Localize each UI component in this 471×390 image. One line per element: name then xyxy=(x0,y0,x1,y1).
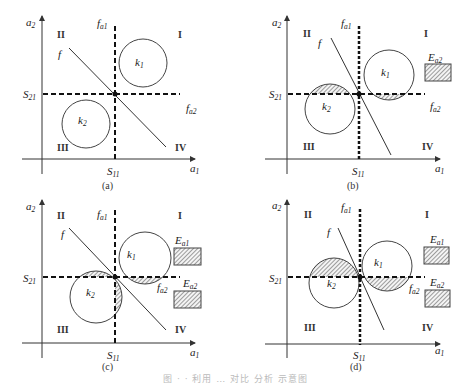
panel-b: a2 a1 S11 S21 fa1 fa2 f k1 k2 Ea2 I II I… xyxy=(265,16,451,192)
f-label: f xyxy=(61,228,66,240)
axis-y-label: a2 xyxy=(26,200,36,214)
intersection-point xyxy=(358,275,363,280)
s21-label: S21 xyxy=(269,88,282,102)
axis-y-label: a2 xyxy=(26,16,36,30)
quadrant-1: I xyxy=(425,209,429,220)
fa1-label: fa1 xyxy=(97,17,108,31)
intersection-point xyxy=(113,92,118,97)
panel-c: a2 a1 S11 S21 fa1 fa2 f k1 k2 Ea1 Ea2 I … xyxy=(22,200,201,373)
s11-label: S11 xyxy=(107,165,119,179)
quadrant-2: II xyxy=(57,210,65,221)
f-line xyxy=(69,48,166,147)
k1-label: k1 xyxy=(374,256,383,270)
quadrant-2: II xyxy=(57,29,65,40)
quadrant-3: III xyxy=(57,142,69,153)
legend-ea1-label: Ea1 xyxy=(429,233,444,247)
panel-d: a2 a1 S11 S21 fa1 fa2 f k1 k2 Ea1 Ea2 I … xyxy=(265,199,450,373)
s21-label: S21 xyxy=(23,88,36,102)
quadrant-4: IV xyxy=(422,141,434,152)
quadrant-1: I xyxy=(424,28,428,39)
legend-ea2-label: Ea2 xyxy=(429,276,444,290)
intersection-point xyxy=(357,92,362,97)
fa2-label: fa2 xyxy=(157,281,168,295)
s21-label: S21 xyxy=(269,272,282,286)
quadrant-4: IV xyxy=(175,142,187,153)
legend-ea2-label: Ea2 xyxy=(182,277,197,291)
k2-label: k2 xyxy=(327,277,336,291)
quadrant-4: IV xyxy=(422,322,434,333)
axis-x-label: a1 xyxy=(435,344,444,358)
legend-ea2-swatch xyxy=(425,64,451,81)
panel-label: (b) xyxy=(347,180,359,192)
quadrant-2: II xyxy=(304,209,312,220)
f-label: f xyxy=(318,37,323,49)
s11-label: S11 xyxy=(352,165,364,179)
legend-ea1-swatch xyxy=(424,247,449,264)
figure-canvas: a2 a1 S11 S21 fa1 fa2 f k1 k2 I II III I… xyxy=(0,0,471,390)
quadrant-2: II xyxy=(303,28,311,39)
quadrant-4: IV xyxy=(175,324,187,335)
axis-x-label: a1 xyxy=(435,162,444,176)
fa1-label: fa1 xyxy=(341,201,352,215)
axis-x-label: a1 xyxy=(190,346,199,360)
axis-x-label: a1 xyxy=(190,162,199,176)
fa1-label: fa1 xyxy=(341,17,352,31)
legend-ea1-label: Ea1 xyxy=(174,234,189,248)
legend-ea2-label: Ea2 xyxy=(427,51,442,65)
k2-label: k2 xyxy=(322,100,331,114)
fa1-label: fa1 xyxy=(97,208,108,222)
quadrant-1: I xyxy=(178,29,182,40)
quadrant-3: III xyxy=(57,324,69,335)
f-label: f xyxy=(58,48,63,60)
intersection-point xyxy=(113,275,118,280)
k2-label: k2 xyxy=(78,114,87,128)
panel-a: a2 a1 S11 S21 fa1 fa2 f k1 k2 I II III I… xyxy=(22,16,199,192)
figure-caption: 图 · · 利用 … 对比 分析 示意图 xyxy=(0,372,471,385)
fa2-label: fa2 xyxy=(186,102,197,116)
axis-y-label: a2 xyxy=(272,199,282,213)
k1-label: k1 xyxy=(127,248,136,262)
f-label: f xyxy=(327,226,332,238)
quadrant-3: III xyxy=(304,322,316,333)
panel-label: (a) xyxy=(102,180,113,192)
k1-label: k1 xyxy=(381,66,390,80)
fa2-label: fa2 xyxy=(409,282,420,296)
k1-label: k1 xyxy=(135,56,144,70)
legend-ea2-swatch xyxy=(425,290,450,307)
s21-label: S21 xyxy=(23,272,36,286)
quadrant-1: I xyxy=(178,210,182,221)
legend-ea1-swatch xyxy=(174,248,201,265)
axis-y-label: a2 xyxy=(272,16,282,30)
fa2-label: fa2 xyxy=(430,100,441,114)
k2-label: k2 xyxy=(86,286,95,300)
quadrant-3: III xyxy=(303,141,315,152)
legend-ea2-swatch xyxy=(174,291,201,308)
